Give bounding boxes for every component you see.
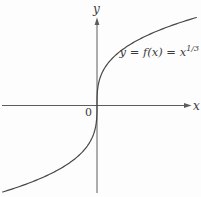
origin-label: 0 xyxy=(85,107,92,118)
x-axis-arrowhead-icon xyxy=(184,103,192,108)
cube-root-function-figure: = n y x 0 y = f(x) = x1/3 xyxy=(0,0,201,197)
equation-exponent: 1/3 xyxy=(186,44,199,53)
y-axis-label: y xyxy=(93,3,100,15)
x-axis-label: x xyxy=(193,100,200,112)
equation-main: y = f(x) = x xyxy=(120,45,187,59)
plot-canvas xyxy=(0,0,201,197)
cube-root-curve xyxy=(3,18,197,193)
y-axis-arrowhead-icon xyxy=(95,18,100,26)
curve-equation-label: y = f(x) = x1/3 xyxy=(120,46,199,60)
